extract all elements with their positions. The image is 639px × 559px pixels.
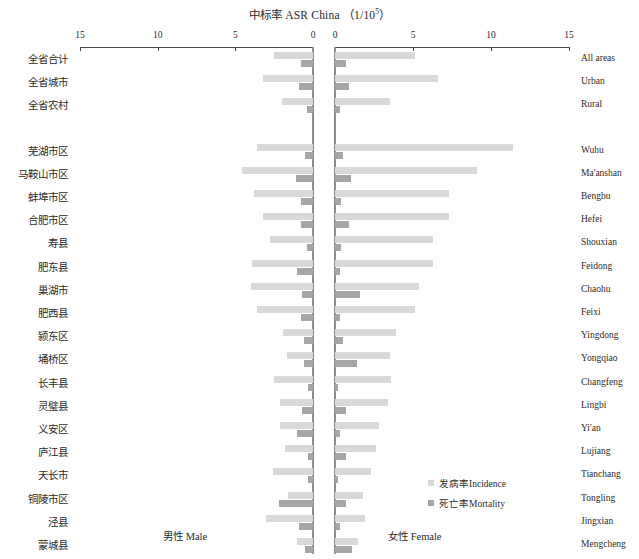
chart-row: 巢湖市Chaohu: [0, 283, 639, 301]
bar-female-incidence: [335, 283, 419, 290]
bar-female-incidence: [335, 538, 358, 545]
bar-female-mortality: [335, 152, 343, 159]
axis-right-tick-label: 0: [333, 30, 338, 40]
row-label-cn: 马鞍山市区: [0, 166, 68, 181]
legend-label-cn: 发病率: [439, 478, 469, 489]
chart-row: 马鞍山市区Ma'anshan: [0, 167, 639, 185]
bar-male-mortality: [297, 430, 313, 437]
bar-female-incidence: [335, 352, 390, 359]
bar-female-mortality: [335, 175, 351, 182]
bar-female-incidence: [335, 329, 396, 336]
row-label-en: All areas: [581, 53, 615, 63]
bar-male-mortality: [305, 546, 313, 553]
row-label-en: Hefei: [581, 214, 602, 224]
bar-male-mortality: [301, 198, 313, 205]
row-label-en: Yongqiao: [581, 353, 618, 363]
bar-male-incidence: [285, 445, 313, 452]
bar-male-incidence: [254, 190, 313, 197]
bar-female-mortality: [335, 60, 346, 67]
chart-row: 蚌埠市区Bengbu: [0, 190, 639, 208]
legend-label-cn: 死亡率: [439, 498, 469, 509]
row-label-en: Yingdong: [581, 330, 618, 340]
bar-male-incidence: [252, 260, 313, 267]
chart-row: 泾县Jingxian: [0, 515, 639, 533]
axis-right-tick-label: 15: [564, 30, 574, 40]
bar-male-mortality: [308, 476, 313, 483]
bar-male-incidence: [251, 283, 313, 290]
bar-male-mortality: [299, 523, 313, 530]
row-label-en: Shouxian: [581, 237, 617, 247]
axis-right-tick: [413, 47, 414, 51]
axis-right-line: [335, 47, 569, 48]
bar-female-incidence: [335, 75, 438, 82]
bar-male-incidence: [263, 75, 313, 82]
row-label-cn: 合肥市区: [0, 212, 68, 227]
bar-female-mortality: [335, 291, 360, 298]
bar-female-incidence: [335, 98, 390, 105]
axis-right: 051015: [335, 30, 569, 48]
bar-male-mortality: [301, 60, 313, 67]
bar-female-mortality: [335, 314, 340, 321]
row-label-en: Bengbu: [581, 191, 611, 201]
axis-left-tick-label: 15: [75, 30, 85, 40]
legend-swatch-icon: [428, 500, 434, 506]
row-label-en: Feidong: [581, 261, 612, 271]
bar-male-mortality: [299, 83, 313, 90]
row-label-en: Tongling: [581, 493, 615, 503]
row-label-cn: 蒙城县: [0, 537, 68, 552]
bar-female-mortality: [335, 523, 340, 530]
bar-female-incidence: [335, 306, 415, 313]
row-label-cn: 泾县: [0, 514, 68, 529]
axis-right-tick: [569, 47, 570, 51]
bar-female-incidence: [335, 213, 449, 220]
axis-right-tick-label: 10: [486, 30, 496, 40]
legend-item: 发病率Incidence: [428, 476, 506, 490]
row-label-cn: 全省合计: [0, 51, 68, 66]
row-label-cn: 长丰县: [0, 375, 68, 390]
bar-male-mortality: [307, 106, 313, 113]
row-label-en: Tianchang: [581, 469, 621, 479]
chart-row: 全省合计All areas: [0, 52, 639, 70]
bar-male-incidence: [280, 422, 313, 429]
male-label-en: Male: [186, 531, 208, 542]
bar-male-incidence: [273, 468, 313, 475]
bar-female-mortality: [335, 476, 338, 483]
male-label-cn: 男性: [163, 530, 183, 542]
bar-male-mortality: [301, 314, 313, 321]
bar-male-incidence: [297, 538, 313, 545]
bar-male-mortality: [304, 337, 313, 344]
bar-male-incidence: [263, 213, 313, 220]
bar-female-mortality: [335, 407, 346, 414]
chart-row: 合肥市区Hefei: [0, 213, 639, 231]
row-label-cn: 义安区: [0, 421, 68, 436]
bar-female-mortality: [335, 268, 340, 275]
axis-left-tick-label: 10: [153, 30, 163, 40]
bar-female-incidence: [335, 236, 433, 243]
row-label-en: Chaohu: [581, 284, 611, 294]
chart-row: 蒙城县Mengcheng: [0, 538, 639, 556]
row-label-cn: 庐江县: [0, 444, 68, 459]
bar-female-mortality: [335, 360, 357, 367]
bar-female-incidence: [335, 445, 376, 452]
bar-male-mortality: [301, 221, 313, 228]
bar-female-incidence: [335, 468, 371, 475]
chart-row: 长丰县Changfeng: [0, 376, 639, 394]
axis-left-tick: [158, 47, 159, 51]
bar-male-mortality: [279, 500, 313, 507]
bar-female-incidence: [335, 376, 391, 383]
bar-male-mortality: [308, 453, 313, 460]
row-label-cn: 肥西县: [0, 305, 68, 320]
bar-male-incidence: [280, 399, 313, 406]
bar-male-incidence: [242, 167, 313, 174]
axis-left-tick-label: 0: [311, 30, 316, 40]
row-label-cn: 灵璧县: [0, 398, 68, 413]
bar-male-incidence: [257, 144, 313, 151]
bar-male-incidence: [257, 306, 313, 313]
bar-female-mortality: [335, 546, 352, 553]
row-label-en: Changfeng: [581, 377, 623, 387]
legend-swatch-icon: [428, 480, 434, 486]
row-label-cn: 颍东区: [0, 328, 68, 343]
male-panel-label: 男性 Male: [163, 528, 207, 543]
bar-female-mortality: [335, 83, 349, 90]
bar-male-mortality: [302, 291, 313, 298]
